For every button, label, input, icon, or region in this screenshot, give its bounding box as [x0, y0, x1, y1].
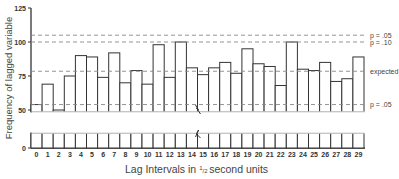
x-tick-label: 16: [210, 151, 218, 158]
bar-upper: [109, 53, 120, 112]
bar-chart-canvas: 0507510012501234567891011121314151617181…: [0, 0, 399, 179]
x-tick-label: 17: [221, 151, 229, 158]
bar-lower: [209, 133, 220, 148]
bar-lower: [164, 133, 175, 148]
x-axis-title: Lag Intervals in 1/2 second units: [125, 163, 268, 175]
reference-line-label: p = .10: [370, 39, 392, 47]
bar-lower: [142, 133, 153, 148]
bar-lower: [64, 133, 75, 148]
bar-lower: [31, 133, 42, 148]
bar-upper: [309, 71, 320, 112]
x-tick-label: 1: [46, 151, 50, 158]
bar-lower: [353, 133, 364, 148]
bar-upper: [164, 77, 175, 112]
bar-upper: [31, 105, 42, 112]
bar-lower: [120, 133, 131, 148]
x-tick-label: 8: [123, 151, 127, 158]
bar-upper: [275, 86, 286, 112]
x-tick-label: 6: [101, 151, 105, 158]
x-tick-label: 26: [321, 151, 329, 158]
bar-lower: [253, 133, 264, 148]
bar-lower: [75, 133, 86, 148]
bar-lower: [98, 133, 109, 148]
y-axis-title: Frequency of lagged variable: [3, 17, 14, 140]
x-tick-label: 22: [277, 151, 285, 158]
y-tick-label: 100: [14, 39, 26, 46]
x-tick-label: 0: [35, 151, 39, 158]
x-tick-label: 12: [166, 151, 174, 158]
x-tick-label: 24: [299, 151, 307, 158]
bar-lower: [153, 133, 164, 148]
bar-lower: [175, 133, 186, 148]
bar-upper: [175, 42, 186, 112]
x-tick-label: 10: [144, 151, 152, 158]
x-tick-label: 21: [266, 151, 274, 158]
bar-upper: [131, 71, 142, 112]
y-tick-label: 50: [18, 107, 26, 114]
bar-lower: [109, 133, 120, 148]
x-tick-label: 23: [288, 151, 296, 158]
bar-lower: [231, 133, 242, 148]
bar-upper: [120, 83, 131, 112]
bar-lower: [131, 133, 142, 148]
x-tick-label: 14: [188, 151, 196, 158]
x-tick-label: 15: [199, 151, 207, 158]
x-tick-label: 7: [112, 151, 116, 158]
bar-upper: [198, 75, 209, 112]
x-tick-label: 28: [343, 151, 351, 158]
x-tick-label: 13: [177, 151, 185, 158]
y-tick-label: 125: [14, 5, 26, 12]
y-tick-label: 75: [18, 73, 26, 80]
reference-line-label: expected: [370, 68, 399, 76]
x-tick-label: 11: [155, 151, 163, 158]
x-tick-label: 29: [355, 151, 363, 158]
bar-lower: [87, 133, 98, 148]
bar-upper: [153, 45, 164, 112]
bar-upper: [75, 56, 86, 112]
x-tick-label: 5: [90, 151, 94, 158]
bar-upper: [353, 57, 364, 112]
bar-upper: [342, 79, 353, 112]
x-tick-label: 3: [68, 151, 72, 158]
bar-upper: [64, 76, 75, 112]
bar-lower: [309, 133, 320, 148]
chart: 0507510012501234567891011121314151617181…: [0, 0, 399, 179]
bar-upper: [42, 84, 53, 112]
bar-lower: [331, 133, 342, 148]
bar-upper: [231, 73, 242, 112]
bar-upper: [264, 66, 275, 112]
bar-lower: [264, 133, 275, 148]
bar-upper: [286, 42, 297, 112]
bar-upper: [98, 77, 109, 112]
bar-lower: [342, 133, 353, 148]
bar-upper: [297, 69, 308, 112]
bar-upper: [331, 81, 342, 112]
bar-lower: [320, 133, 331, 148]
x-tick-label: 19: [244, 151, 252, 158]
y-tick-label: 0: [22, 145, 26, 152]
bar-lower: [53, 133, 64, 148]
x-tick-label: 18: [232, 151, 240, 158]
bar-lower: [297, 133, 308, 148]
bar-lower: [275, 133, 286, 148]
x-tick-label: 2: [57, 151, 61, 158]
bar-upper: [209, 68, 220, 112]
bar-lower: [242, 133, 253, 148]
bar-upper: [87, 57, 98, 112]
bar-upper: [242, 49, 253, 112]
bar-lower: [220, 133, 231, 148]
x-tick-label: 9: [134, 151, 138, 158]
bar-lower: [286, 133, 297, 148]
x-tick-label: 25: [310, 151, 318, 158]
reference-line-label: p = .05: [370, 101, 392, 109]
x-tick-label: 27: [332, 151, 340, 158]
x-tick-label: 20: [255, 151, 263, 158]
bar-lower: [198, 133, 209, 148]
bar-upper: [142, 84, 153, 112]
x-tick-label: 4: [79, 151, 83, 158]
bar-lower: [42, 133, 53, 148]
